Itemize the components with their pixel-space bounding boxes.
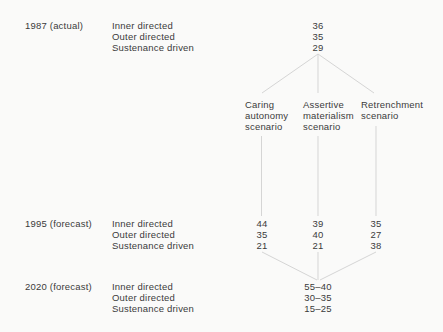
scenario-forecast-diagram: 1987 (actual) Inner directed Outer direc… bbox=[0, 0, 443, 332]
values-1987: 36 35 29 bbox=[296, 20, 340, 53]
category-outer-directed: Outer directed bbox=[112, 229, 194, 240]
scenario-label-retrenchment: Retrenchment scenario bbox=[361, 99, 423, 121]
values-1995-retrenchment: 35 27 38 bbox=[354, 218, 398, 251]
category-outer-directed: Outer directed bbox=[112, 31, 194, 42]
period-label-1987: 1987 (actual) bbox=[25, 20, 83, 31]
value-1995-assertive-sustenance: 21 bbox=[296, 240, 340, 251]
period-label-2020: 2020 (forecast) bbox=[25, 281, 92, 292]
value-1995-retrenchment-outer: 27 bbox=[354, 229, 398, 240]
values-2020: 55–40 30–35 15–25 bbox=[288, 281, 348, 314]
converge-line-right bbox=[320, 252, 376, 280]
value-1995-assertive-inner: 39 bbox=[296, 218, 340, 229]
category-sustenance-driven: Sustenance driven bbox=[112, 303, 194, 314]
category-list-2020: Inner directed Outer directed Sustenance… bbox=[112, 281, 194, 314]
scenario-assertive-line2: materialism bbox=[303, 110, 354, 121]
category-list-1995: Inner directed Outer directed Sustenance… bbox=[112, 218, 194, 251]
value-1987-inner: 36 bbox=[296, 20, 340, 31]
scenario-caring-line2: autonomy bbox=[245, 110, 288, 121]
value-1995-caring-sustenance: 21 bbox=[240, 240, 284, 251]
scenario-caring-line1: Caring bbox=[245, 99, 288, 110]
converge-line-left bbox=[262, 252, 317, 280]
value-2020-outer-range: 30–35 bbox=[288, 292, 348, 303]
category-outer-directed: Outer directed bbox=[112, 292, 194, 303]
category-list-1987: Inner directed Outer directed Sustenance… bbox=[112, 20, 194, 53]
value-1995-retrenchment-inner: 35 bbox=[354, 218, 398, 229]
value-1987-sustenance: 29 bbox=[296, 42, 340, 53]
value-2020-inner-range: 55–40 bbox=[288, 281, 348, 292]
fan-line-to-retrenchment bbox=[318, 54, 374, 93]
category-sustenance-driven: Sustenance driven bbox=[112, 42, 194, 53]
values-1995-caring: 44 35 21 bbox=[240, 218, 284, 251]
scenario-assertive-line3: scenario bbox=[303, 121, 354, 132]
value-1995-retrenchment-sustenance: 38 bbox=[354, 240, 398, 251]
category-inner-directed: Inner directed bbox=[112, 281, 194, 292]
scenario-assertive-line1: Assertive bbox=[303, 99, 354, 110]
scenario-label-assertive-materialism: Assertive materialism scenario bbox=[303, 99, 354, 132]
value-1995-caring-inner: 44 bbox=[240, 218, 284, 229]
values-1995-assertive: 39 40 21 bbox=[296, 218, 340, 251]
scenario-caring-line3: scenario bbox=[245, 121, 288, 132]
scenario-retrenchment-line2: scenario bbox=[361, 110, 423, 121]
fan-line-to-caring bbox=[262, 54, 318, 93]
value-1987-outer: 35 bbox=[296, 31, 340, 42]
value-1995-assertive-outer: 40 bbox=[296, 229, 340, 240]
scenario-label-caring-autonomy: Caring autonomy scenario bbox=[245, 99, 288, 132]
period-label-1995: 1995 (forecast) bbox=[25, 218, 92, 229]
scenario-retrenchment-line1: Retrenchment bbox=[361, 99, 423, 110]
value-1995-caring-outer: 35 bbox=[240, 229, 284, 240]
category-inner-directed: Inner directed bbox=[112, 20, 194, 31]
value-2020-sustenance-range: 15–25 bbox=[288, 303, 348, 314]
category-sustenance-driven: Sustenance driven bbox=[112, 240, 194, 251]
category-inner-directed: Inner directed bbox=[112, 218, 194, 229]
